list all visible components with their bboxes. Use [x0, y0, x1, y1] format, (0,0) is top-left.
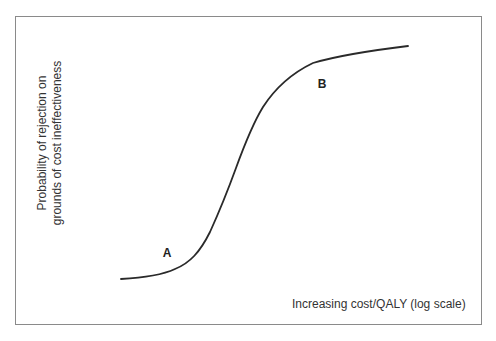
sigmoid-curve	[121, 46, 408, 279]
sigmoid-curve-plot	[0, 0, 496, 341]
point-label-b: B	[318, 77, 327, 91]
y-axis-label: Probability of rejection on grounds of c…	[35, 61, 65, 226]
point-label-a: A	[163, 246, 172, 260]
y-axis-label-line1: Probability of rejection on	[35, 61, 50, 226]
y-axis-label-line2: grounds of cost ineffectiveness	[50, 61, 65, 226]
x-axis-label: Increasing cost/QALY (log scale)	[292, 297, 466, 311]
